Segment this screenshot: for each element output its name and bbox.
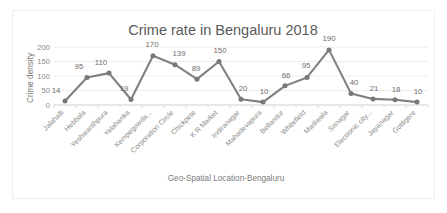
data-label: 95 [75,62,84,71]
data-point-marker[interactable] [239,97,244,102]
x-category-label: Whitefield [280,109,308,137]
data-point-marker[interactable] [261,100,266,105]
x-category-label: Corporation Circle [129,109,175,155]
y-axis-tick-labels: 050100150200 [37,43,50,110]
data-label: 18 [392,85,401,94]
data-point-marker[interactable] [305,75,310,80]
data-point-marker[interactable] [415,100,420,105]
data-label: 66 [282,71,291,80]
data-label: 21 [370,84,379,93]
y-tick-label: 100 [37,72,50,81]
data-point-marker[interactable] [327,47,332,52]
x-category-label: Madiwala [303,109,330,136]
data-label: 190 [322,34,336,43]
data-label: 14 [52,86,61,95]
data-point-marker[interactable] [371,96,376,101]
data-point-marker[interactable] [349,91,354,96]
data-labels: 149511019170139891502010669519040211810 [52,34,423,96]
data-point-marker[interactable] [195,77,200,82]
data-point-marker[interactable] [173,62,178,67]
data-label: 170 [145,40,159,49]
y-axis-title: Crime density [26,52,35,103]
data-label: 89 [192,64,201,73]
x-category-label: Jalahalli [42,108,66,132]
data-point-marker[interactable] [283,83,288,88]
data-label: 20 [239,84,248,93]
data-label: 10 [260,87,269,96]
y-tick-label: 0 [46,101,50,110]
y-tick-label: 50 [42,86,50,95]
data-label: 150 [213,46,227,55]
line-chart[interactable]: Crime rate in Bengaluru 2018 Crime densi… [0,0,447,213]
x-category-label: Gottigere [391,109,417,135]
data-point-marker[interactable] [393,97,398,102]
chart-title: Crime rate in Bengaluru 2018 [128,22,317,38]
data-label: 10 [414,87,423,96]
data-label: 40 [350,78,359,87]
y-tick-label: 200 [37,43,50,52]
data-point-marker[interactable] [85,75,90,80]
data-label: 110 [95,58,108,67]
x-axis-category-labels: JalahalliHebbalaYeshwanthpuraYelahankaKe… [42,108,418,155]
data-point-marker[interactable] [217,59,222,64]
data-point-marker[interactable] [107,71,112,76]
data-point-marker[interactable] [129,97,134,102]
x-axis-title: Geo-Spatial Location-Bengaluru [168,174,285,183]
y-tick-label: 150 [37,57,50,66]
data-label: 139 [172,49,185,58]
data-point-marker[interactable] [151,53,156,58]
data-point-marker[interactable] [63,98,68,103]
data-label: 19 [120,84,129,93]
data-label: 95 [302,61,311,70]
x-axis [54,105,428,108]
